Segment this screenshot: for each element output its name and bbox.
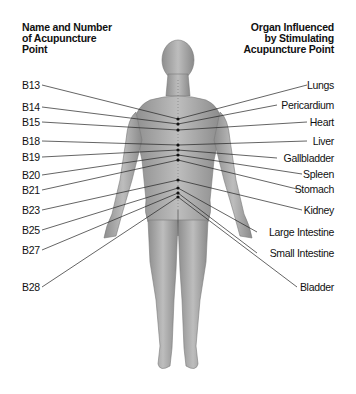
organ-label-liver: Liver [313, 136, 334, 147]
organ-label-heart: Heart [310, 117, 334, 128]
body-figure [0, 0, 356, 394]
acupoint-dot-b28 [176, 195, 179, 198]
point-label-b14: B14 [22, 102, 40, 113]
acupoint-dot-b20 [176, 153, 179, 156]
right-leg-shape [178, 220, 208, 369]
acupoint-dot-b19 [176, 148, 179, 151]
point-label-b21: B21 [22, 185, 40, 196]
point-label-b19: B19 [22, 152, 40, 163]
acupoint-dot-b25 [176, 186, 179, 189]
acupoint-dot-b13 [176, 117, 179, 120]
point-label-b13: B13 [22, 80, 40, 91]
organ-label-kidney: Kidney [304, 205, 334, 216]
acupoint-dot-b14 [176, 122, 179, 125]
organ-label-gallbladder: Gallbladder [284, 153, 334, 164]
organ-label-small-intestine: Small Intestine [270, 248, 334, 259]
organ-label-spleen: Spleen [303, 169, 334, 180]
acupoint-dot-b15 [176, 128, 179, 131]
organ-label-lungs: Lungs [307, 80, 334, 91]
acupoint-dot-b18 [176, 143, 179, 146]
organ-label-bladder: Bladder [300, 282, 334, 293]
organ-label-pericardium: Pericardium [281, 100, 334, 111]
acupoint-dot-b21 [176, 158, 179, 161]
point-label-b18: B18 [22, 136, 40, 147]
point-label-b27: B27 [22, 245, 40, 256]
point-label-b15: B15 [22, 117, 40, 128]
left-leg-shape [148, 220, 178, 369]
acupoint-dot-b23 [176, 178, 179, 181]
acupoint-dot-b27 [176, 191, 179, 194]
point-label-b23: B23 [22, 205, 40, 216]
point-label-b20: B20 [22, 170, 40, 181]
right-arm-shape [214, 112, 252, 238]
point-label-b28: B28 [22, 282, 40, 293]
organ-label-stomach: Stomach [295, 184, 334, 195]
organ-label-large-intestine: Large Intestine [269, 227, 334, 238]
point-label-b25: B25 [22, 225, 40, 236]
